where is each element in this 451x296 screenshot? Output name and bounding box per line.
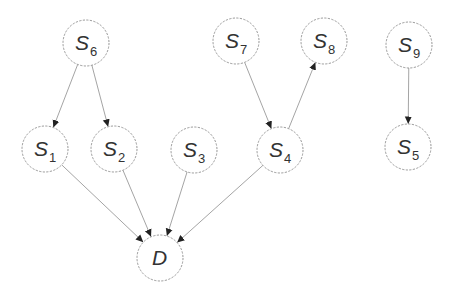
node-s7: S7 (213, 18, 259, 64)
node-s6: S6 (63, 20, 109, 66)
node-subscript: 5 (412, 148, 419, 163)
edge-s3-to-d (167, 172, 187, 236)
edge-s6-to-s2 (92, 65, 108, 126)
node-subscript: 4 (284, 151, 291, 166)
edge-s6-to-s1 (53, 64, 77, 127)
diagram-canvas: S6S7S8S9S1S2S3S4S5D (0, 0, 451, 296)
node-s1: S1 (22, 126, 68, 172)
edge-s4-to-d (177, 165, 262, 242)
node-s2: S2 (91, 126, 137, 172)
edge-s7-to-s4 (245, 62, 272, 128)
node-s3: S3 (171, 127, 217, 173)
edge-s4-to-s8 (289, 63, 316, 129)
directed-graph: S6S7S8S9S1S2S3S4S5D (0, 0, 451, 296)
node-label: D (152, 246, 167, 269)
node-subscript: 2 (118, 150, 125, 165)
node-subscript: 3 (198, 151, 205, 166)
node-subscript: 8 (328, 42, 335, 57)
node-s5: S5 (385, 124, 431, 170)
node-subscript: 7 (240, 42, 247, 57)
edge-s1-to-d (62, 165, 143, 242)
nodes-layer: S6S7S8S9S1S2S3S4S5D (22, 18, 432, 281)
node-subscript: 6 (90, 44, 97, 59)
node-subscript: 1 (49, 150, 56, 165)
node-d: D (137, 235, 183, 281)
edge-s9-to-s5 (408, 68, 409, 124)
node-s9: S9 (386, 22, 432, 68)
node-s8: S8 (301, 18, 347, 64)
node-s4: S4 (257, 127, 303, 173)
node-subscript: 9 (413, 46, 420, 61)
